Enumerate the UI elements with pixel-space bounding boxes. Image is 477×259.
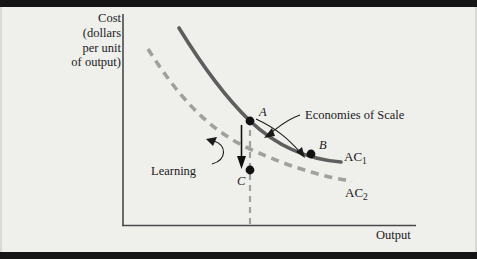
curve-direction-arrow [256, 119, 305, 158]
x-axis-label: Output [376, 228, 411, 243]
annotation-learning: Learning [151, 164, 196, 179]
point-marker-b [307, 150, 316, 159]
learning-arrow [237, 125, 246, 169]
point-marker-c [246, 166, 255, 175]
point-marker-a [246, 117, 255, 126]
learning-pointer [206, 137, 224, 164]
curve-label-ac1-subscript: 1 [362, 156, 367, 166]
curve-label-ac1-text: AC [344, 149, 362, 164]
curve-label-ac2-subscript: 2 [363, 192, 368, 202]
y-axis-label: Cost (dollars per unit of output) [71, 11, 121, 70]
curve-label-ac1: AC1 [344, 149, 367, 164]
curve-ac1 [179, 28, 341, 162]
plot-area: Cost (dollars per unit of output) Output… [0, 7, 477, 252]
point-label-a: A [259, 105, 267, 120]
annotation-economies-of-scale: Economies of Scale [305, 108, 404, 123]
curve-label-ac2: AC2 [345, 185, 368, 200]
point-label-c: C [237, 174, 245, 189]
point-label-b: B [319, 138, 327, 153]
frame-top-bar [0, 0, 477, 7]
figure-container: Cost (dollars per unit of output) Output… [0, 0, 477, 259]
frame-bottom-bar [0, 252, 477, 259]
curve-label-ac2-text: AC [345, 185, 363, 200]
